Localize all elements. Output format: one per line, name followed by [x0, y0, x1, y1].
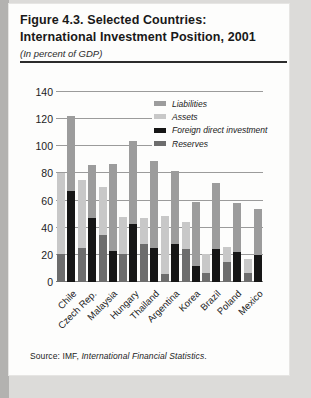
segment-assets: [161, 216, 169, 274]
segment-reserves: [140, 244, 148, 282]
segment-foreign-direct-investment: [150, 248, 158, 282]
segment-reserves: [161, 274, 169, 282]
segment-reserves: [202, 273, 210, 283]
legend-item-foreign-direct-investment: Foreign direct investment: [154, 124, 267, 137]
segment-foreign-direct-investment: [171, 244, 179, 282]
source-publication: International Financial Statistics: [81, 351, 204, 361]
source-suffix: .: [204, 351, 206, 361]
segment-liabilities: [233, 203, 241, 252]
segment-assets: [99, 187, 107, 235]
segment-assets: [244, 259, 252, 273]
segment-assets: [78, 180, 86, 248]
legend-label: Foreign direct investment: [172, 125, 267, 135]
legend-item-reserves: Reserves: [154, 137, 267, 150]
bar-group-czech-rep: [77, 91, 98, 282]
external-assets-bar: [99, 187, 107, 282]
segment-liabilities: [129, 141, 137, 224]
external-liabilities-bar: [129, 141, 137, 282]
segment-liabilities: [171, 171, 179, 244]
legend-swatch-icon: [154, 101, 166, 106]
external-assets-bar: [161, 216, 169, 282]
source-line: Source: IMF, International Financial Sta…: [30, 351, 207, 361]
segment-liabilities: [88, 165, 96, 218]
page-margin-band: [0, 0, 9, 398]
y-tick-label-80: 80: [41, 168, 53, 178]
external-liabilities-bar: [150, 161, 158, 282]
segment-reserves: [99, 235, 107, 283]
segment-foreign-direct-investment: [129, 224, 137, 282]
y-tick-label-60: 60: [41, 196, 53, 206]
segment-assets: [182, 222, 190, 249]
external-liabilities-bar: [109, 164, 117, 282]
legend-swatch-icon: [154, 141, 166, 146]
segment-assets: [119, 217, 127, 254]
external-assets-bar: [140, 218, 148, 282]
segment-reserves: [244, 273, 252, 283]
legend-label: Reserves: [172, 139, 208, 149]
segment-reserves: [78, 248, 86, 282]
segment-foreign-direct-investment: [212, 249, 220, 282]
external-liabilities-bar: [212, 183, 220, 282]
external-assets-bar: [244, 259, 252, 282]
figure-card: Figure 4.3. Selected Countries: Internat…: [9, 4, 289, 375]
legend-item-liabilities: Liabilities: [154, 97, 267, 110]
x-tick-label-korea: Korea: [177, 288, 203, 314]
segment-reserves: [57, 254, 65, 283]
segment-foreign-direct-investment: [192, 266, 200, 282]
segment-assets: [202, 254, 210, 273]
external-assets-bar: [119, 217, 127, 282]
source-prefix: Source: IMF,: [30, 351, 81, 361]
segment-reserves: [119, 254, 127, 283]
y-tick-label-0: 0: [47, 277, 53, 287]
bar-group-malaysia: [97, 91, 118, 282]
bar-group-hungary: [118, 91, 139, 282]
segment-reserves: [223, 262, 231, 282]
segment-foreign-direct-investment: [88, 218, 96, 282]
y-axis-labels: 020406080100120140: [17, 91, 53, 282]
segment-foreign-direct-investment: [67, 191, 75, 282]
segment-assets: [57, 173, 65, 253]
segment-liabilities: [150, 161, 158, 248]
y-tick-label-120: 120: [35, 114, 53, 124]
external-assets-bar: [223, 247, 231, 282]
segment-liabilities: [67, 116, 75, 191]
external-liabilities-bar: [67, 116, 75, 282]
legend-swatch-icon: [154, 128, 166, 133]
y-tick-label-20: 20: [41, 250, 53, 260]
y-tick-label-140: 140: [35, 87, 53, 97]
segment-foreign-direct-investment: [254, 255, 262, 282]
segment-reserves: [182, 249, 190, 282]
external-assets-bar: [202, 254, 210, 283]
segment-foreign-direct-investment: [233, 252, 241, 282]
external-assets-bar: [78, 180, 86, 282]
chart-area: 020406080100120140 LiabilitiesAssetsFore…: [9, 4, 289, 375]
segment-liabilities: [109, 164, 117, 251]
segment-liabilities: [192, 202, 200, 266]
x-axis-labels: ChileCzech Rep.MalaysiaHungaryThailandAr…: [56, 284, 263, 329]
external-assets-bar: [182, 222, 190, 282]
external-liabilities-bar: [254, 209, 262, 282]
segment-liabilities: [212, 183, 220, 250]
legend: LiabilitiesAssetsForeign direct investme…: [152, 96, 271, 151]
segment-assets: [223, 247, 231, 262]
y-tick-label-100: 100: [35, 141, 53, 151]
y-tick-label-40: 40: [41, 223, 53, 233]
segment-assets: [140, 218, 148, 244]
bar-group-chile: [56, 91, 77, 282]
external-liabilities-bar: [171, 171, 179, 282]
external-liabilities-bar: [88, 165, 96, 282]
external-liabilities-bar: [233, 203, 241, 282]
segment-liabilities: [254, 209, 262, 255]
external-assets-bar: [57, 173, 65, 282]
legend-label: Assets: [172, 112, 198, 122]
legend-label: Liabilities: [172, 99, 207, 109]
segment-foreign-direct-investment: [109, 251, 117, 282]
external-liabilities-bar: [192, 202, 200, 282]
legend-item-assets: Assets: [154, 110, 267, 123]
legend-swatch-icon: [154, 114, 166, 119]
